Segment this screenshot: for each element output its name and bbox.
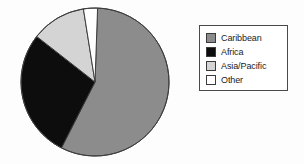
legend-item-other[interactable]: Other: [206, 73, 283, 87]
pie-chart-svg: [18, 7, 172, 157]
legend-swatch-africa: [206, 47, 216, 57]
legend-label-other: Other: [221, 75, 243, 85]
legend-label-asia-pacific: Asia/Pacific: [221, 61, 266, 71]
legend-item-caribbean[interactable]: Caribbean: [206, 31, 283, 45]
legend-swatch-other: [206, 75, 216, 85]
pie-chart: [18, 7, 172, 157]
legend-swatch-asia-pacific: [206, 61, 216, 71]
chart-legend: Caribbean Africa Asia/Pacific Other: [199, 25, 288, 91]
legend-item-asia-pacific[interactable]: Asia/Pacific: [206, 59, 283, 73]
pie-slice-group: [21, 8, 169, 156]
legend-item-africa[interactable]: Africa: [206, 45, 283, 59]
legend-swatch-caribbean: [206, 33, 216, 43]
chart-canvas: Caribbean Africa Asia/Pacific Other: [0, 0, 304, 164]
legend-label-africa: Africa: [221, 47, 243, 57]
legend-label-caribbean: Caribbean: [221, 33, 262, 43]
